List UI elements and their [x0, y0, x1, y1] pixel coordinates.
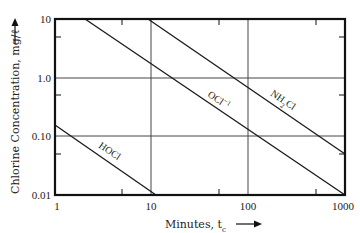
- plot-frame: [55, 19, 345, 195]
- y-axis-title: Chlorine Concentration, mg/ℓ: [9, 29, 22, 194]
- y-tick-labels: 10 1.0 0.10 0.01: [32, 13, 52, 201]
- y-axis-arrowhead-icon: [12, 18, 19, 26]
- x-axis-subscript: c: [222, 226, 226, 233]
- x-tick-label: 1000: [332, 200, 355, 212]
- series-line-nh2cl: [148, 19, 345, 154]
- series-label-ocl: OCl−1: [206, 88, 233, 112]
- y-tick-label: 1.0: [37, 72, 51, 84]
- x-tick-label: 1: [54, 200, 60, 212]
- gridlines: [55, 19, 345, 195]
- chart: 10 1.0 0.10 0.01 1 10 100 1000 Minutes, …: [0, 0, 360, 233]
- series-line-ocl: [85, 19, 345, 195]
- x-tick-label: 10: [146, 200, 158, 212]
- x-axis-title: Minutes, t: [165, 218, 223, 231]
- x-tick-labels: 1 10 100 1000: [54, 200, 354, 212]
- y-axis-label: Chlorine Concentration, mg/ℓ: [9, 18, 22, 194]
- svg-text:HOCl: HOCl: [97, 140, 123, 163]
- minor-ticks: [55, 19, 345, 195]
- data-lines: [55, 19, 345, 195]
- y-tick-label: 10: [40, 13, 52, 25]
- svg-text:Minutes, tc: Minutes, tc: [165, 218, 226, 233]
- y-tick-label: 0.10: [32, 130, 52, 142]
- svg-text:OCl−1: OCl−1: [206, 88, 233, 112]
- x-axis-arrowhead-icon: [254, 221, 262, 228]
- x-tick-label: 100: [240, 200, 257, 212]
- series-label-hocl: HOCl: [97, 140, 123, 163]
- y-tick-label: 0.01: [32, 189, 51, 201]
- x-axis-label: Minutes, tc: [165, 218, 262, 233]
